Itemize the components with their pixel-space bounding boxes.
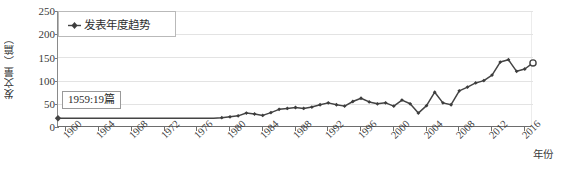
x-tick-label-1960: 1960	[61, 118, 84, 141]
x-axis-title: 年份	[533, 146, 553, 161]
x-tick-label-2000: 2000	[389, 118, 412, 141]
x-tick-label-1968: 1968	[127, 118, 150, 141]
publication-trend-chart: 发文量（篇） 250 200 150 100 50 0	[0, 0, 562, 170]
x-tick-label-2012: 2012	[487, 118, 510, 141]
x-tick-label-1972: 1972	[159, 118, 182, 141]
x-tick-label-1988: 1988	[291, 118, 314, 141]
x-tick-label-1996: 1996	[356, 118, 379, 141]
x-tick-label-1992: 1992	[323, 118, 346, 141]
x-tick-label-1980: 1980	[225, 118, 248, 141]
x-tick-label-1976: 1976	[192, 118, 215, 141]
x-axis-labels: 1960196419681972197619801984198819921996…	[0, 0, 562, 170]
x-tick-label-2016: 2016	[520, 118, 543, 141]
x-tick-label-1984: 1984	[258, 118, 281, 141]
x-tick-label-2008: 2008	[454, 118, 477, 141]
x-tick-label-2004: 2004	[422, 118, 445, 141]
x-tick-label-1964: 1964	[94, 118, 117, 141]
